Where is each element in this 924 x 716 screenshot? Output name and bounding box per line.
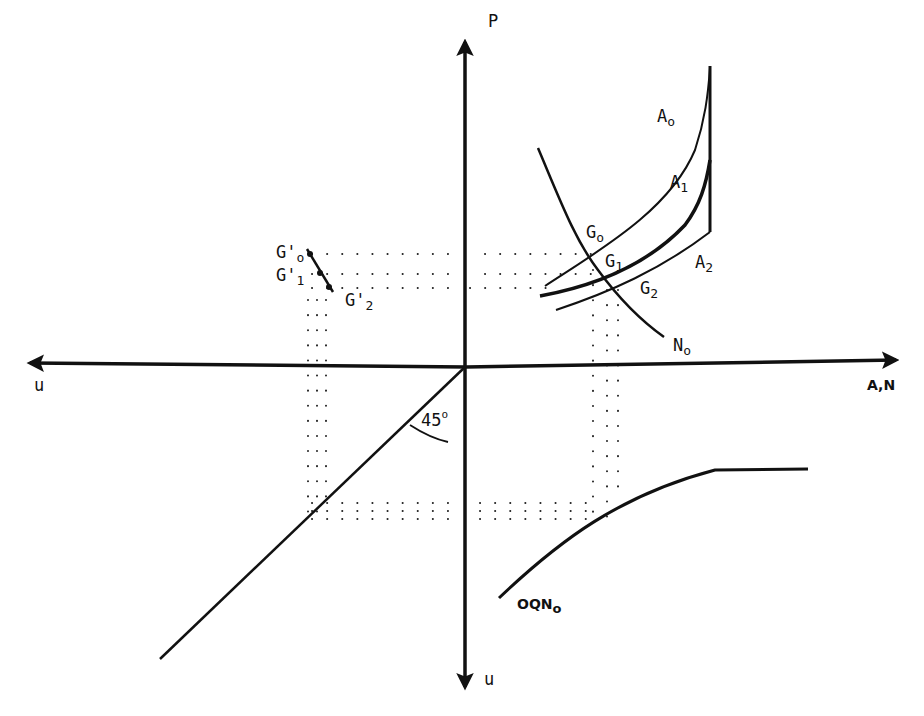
axis-label-p: P (488, 13, 498, 30)
curve-a2 (556, 232, 710, 310)
label-n0: No (673, 337, 691, 357)
g-prime-segment (307, 249, 333, 292)
label-a0: Ao (657, 108, 675, 128)
line-45-degree (160, 367, 465, 659)
axes (30, 42, 896, 687)
label-oqn: OQNo (517, 597, 561, 615)
label-a1: A1 (670, 174, 688, 194)
label-g0-prime: G'o (276, 244, 304, 264)
horizontal-axis-left (30, 363, 466, 367)
horizontal-axis-right (466, 360, 896, 367)
diagram-svg (0, 0, 924, 716)
axis-label-u-left: u (34, 377, 44, 394)
label-g1: G1 (605, 253, 623, 273)
label-g0: Go (586, 224, 604, 244)
axis-label-u-down: u (484, 671, 494, 688)
label-a2: A2 (695, 254, 713, 274)
label-g2: G2 (640, 280, 658, 300)
diagram-canvas: P A,N u u Ao A1 A2 No OQNo Go G1 G2 G'o … (0, 0, 924, 716)
curve-oqn (499, 469, 808, 598)
axis-label-an: A,N (867, 378, 895, 392)
label-g2-prime: G'2 (345, 292, 373, 312)
label-g1-prime: G'1 (276, 267, 304, 287)
label-angle-45: 45o (421, 409, 448, 429)
